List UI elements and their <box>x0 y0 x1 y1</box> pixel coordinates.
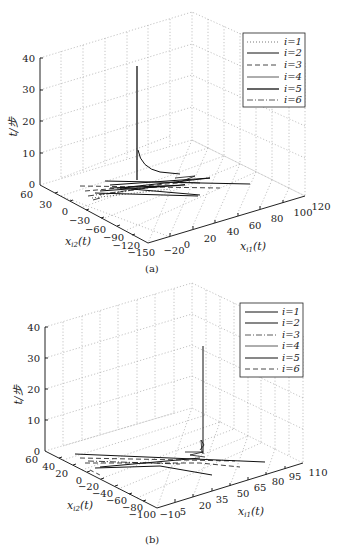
x2-tick: 60 <box>20 189 33 200</box>
x1-tick: 95 <box>289 471 302 482</box>
x1-tick: 5 <box>180 506 186 517</box>
z-tick: 10 <box>27 415 40 426</box>
trajectories-b <box>75 346 265 475</box>
legend-a: i=1 i=2 i=3 i=4 i=5 i=6 <box>243 33 305 107</box>
x1-tick: −20 <box>163 245 184 256</box>
x1-tick: 20 <box>199 500 212 511</box>
x1-tick: 20 <box>204 233 217 244</box>
z-axis-label: t/步 <box>12 384 25 404</box>
z-tick: 30 <box>27 353 40 364</box>
x1-tick: 50 <box>237 488 250 499</box>
z-tick: 40 <box>22 53 35 64</box>
x1-tick: 100 <box>293 207 312 218</box>
x1-tick: 40 <box>227 226 240 237</box>
z-tick: 30 <box>22 84 35 95</box>
z-tick-labels-b: 40 30 20 10 0 <box>27 322 40 457</box>
figure-a: 40 30 20 10 0 60 30 0 −30 −60 −90 −120 −… <box>0 0 338 280</box>
x1-tick: 80 <box>272 476 285 487</box>
z-tick: 20 <box>22 116 35 127</box>
x2-tick: −150 <box>128 247 155 258</box>
x2-tick: 20 <box>55 468 68 479</box>
z-tick: 20 <box>27 384 40 395</box>
x1-tick: 60 <box>249 220 262 231</box>
figure-b: 40 30 20 10 0 60 40 20 0 −20 −40 −60 −80… <box>0 280 338 551</box>
caption-b: (b) <box>145 534 159 545</box>
x2-tick: −100 <box>129 509 156 520</box>
x1-tick: 120 <box>311 201 330 212</box>
legend-label: i=5 <box>284 83 302 94</box>
x2-axis-label: xi2(t) <box>65 235 91 249</box>
legend-label: i=2 <box>284 47 302 58</box>
x1-tick: −10 <box>159 509 180 520</box>
legend-label: i=6 <box>284 94 303 105</box>
x2-tick: 60 <box>25 454 38 465</box>
legend-b: i=1 i=2 i=3 i=4 i=5 i=6 <box>240 303 303 377</box>
legend-label: i=3 <box>282 329 300 340</box>
x1-tick: 0 <box>184 239 190 250</box>
x2-tick: 0 <box>62 206 68 217</box>
x2-tick: 40 <box>42 461 55 472</box>
trajectories-a <box>80 66 250 200</box>
x2-tick: 30 <box>39 199 52 210</box>
legend-label: i=4 <box>284 71 302 82</box>
legend-label: i=5 <box>282 352 300 363</box>
x1-axis-label: xi1(t) <box>240 240 266 254</box>
legend-label: i=3 <box>284 59 302 70</box>
x1-axis-label: xi1(t) <box>238 505 264 519</box>
legend-label: i=1 <box>282 306 300 317</box>
legend-label: i=4 <box>282 340 300 351</box>
legend-label: i=1 <box>284 36 302 47</box>
caption-a: (a) <box>145 263 159 274</box>
z-tick: 10 <box>22 148 35 159</box>
z-tick-labels-a: 40 30 20 10 0 <box>22 53 35 190</box>
legend-label: i=6 <box>282 363 301 374</box>
legend-label: i=2 <box>282 317 300 328</box>
x1-tick: 65 <box>254 482 267 493</box>
z-tick: 40 <box>27 322 40 333</box>
x1-tick: 80 <box>271 213 284 224</box>
x1-tick: 35 <box>216 494 229 505</box>
z-axis-label: t/步 <box>7 116 20 136</box>
x1-tick: 110 <box>308 467 327 478</box>
x2-axis-label: xi2(t) <box>67 499 93 513</box>
